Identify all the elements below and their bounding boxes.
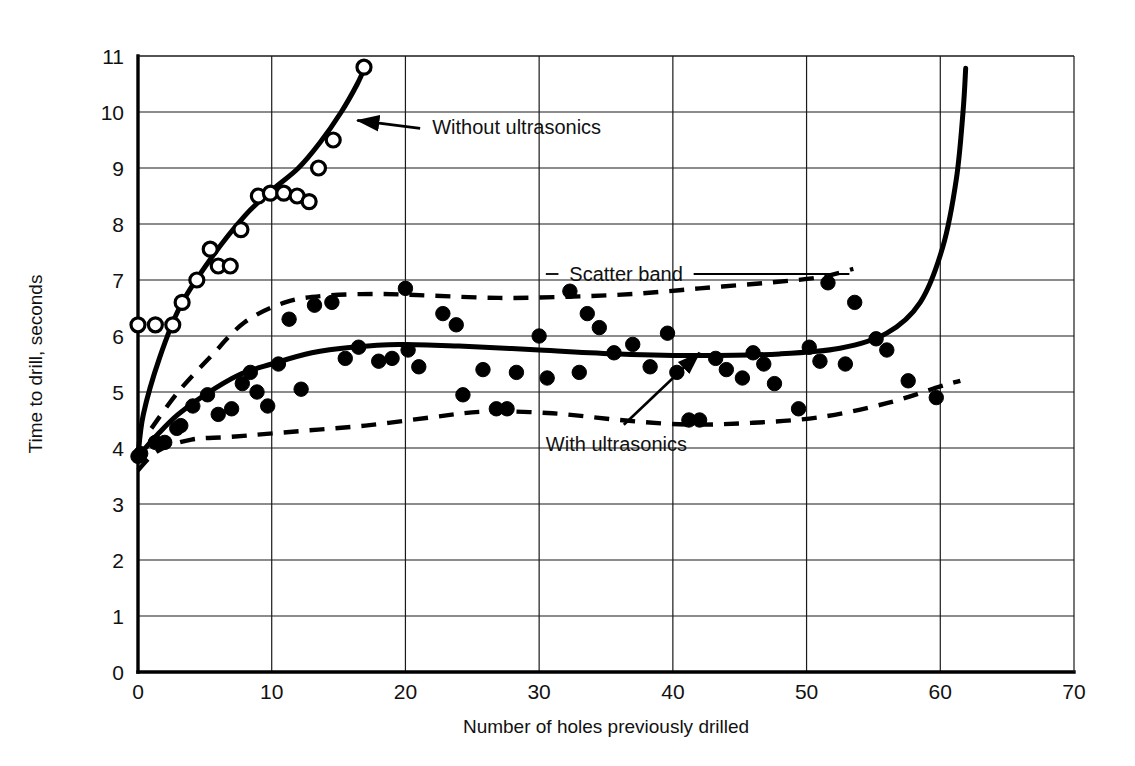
x-tick-label: 20 [394, 680, 417, 703]
data-point-filled [200, 388, 214, 402]
data-point-filled [412, 360, 426, 374]
y-tick-label: 7 [112, 269, 124, 292]
data-point-filled [813, 354, 827, 368]
data-point-filled [325, 295, 339, 309]
data-point-filled [643, 360, 657, 374]
data-point-filled [735, 371, 749, 385]
data-point-filled [158, 435, 172, 449]
data-point-filled [880, 343, 894, 357]
data-point-filled [607, 346, 621, 360]
data-point-filled [509, 365, 523, 379]
data-point-filled [282, 312, 296, 326]
data-point-filled [848, 295, 862, 309]
y-tick-label: 10 [101, 101, 124, 124]
data-point-filled [901, 374, 915, 388]
x-tick-label: 70 [1062, 680, 1085, 703]
data-point-filled [186, 399, 200, 413]
chart-figure: 010203040506070 01234567891011 Without u… [0, 0, 1135, 766]
data-point-filled [401, 343, 415, 357]
data-point-filled [626, 337, 640, 351]
data-point-open [312, 161, 326, 175]
y-tick-label: 4 [112, 437, 124, 460]
data-point-filled [449, 318, 463, 332]
data-point-open [357, 60, 371, 74]
data-point-filled [338, 351, 352, 365]
data-point-open [131, 318, 145, 332]
data-point-filled [211, 407, 225, 421]
data-point-open [203, 242, 217, 256]
y-tick-label: 11 [102, 45, 124, 68]
data-point-filled [692, 413, 706, 427]
data-point-filled [456, 388, 470, 402]
data-point-filled [261, 399, 275, 413]
data-point-open [302, 195, 316, 209]
data-point-open [175, 295, 189, 309]
data-point-filled [243, 365, 257, 379]
scatter-band-label: Scatter band [569, 263, 682, 285]
data-point-filled [532, 329, 546, 343]
x-tick-label: 60 [929, 680, 952, 703]
data-point-open [277, 186, 291, 200]
data-point-filled [929, 390, 943, 404]
data-point-filled [869, 332, 883, 346]
data-point-filled [572, 365, 586, 379]
data-point-filled [540, 371, 554, 385]
data-point-filled [224, 402, 238, 416]
data-point-filled [580, 306, 594, 320]
data-point-filled [371, 354, 385, 368]
y-tick-label: 0 [112, 661, 124, 684]
y-tick-label: 9 [112, 157, 124, 180]
data-point-filled [436, 306, 450, 320]
data-point-filled [398, 281, 412, 295]
data-point-filled [821, 276, 835, 290]
data-point-filled [757, 357, 771, 371]
x-tick-label: 30 [527, 680, 550, 703]
y-tick-label: 5 [112, 381, 124, 404]
data-point-filled [767, 376, 781, 390]
data-point-open [148, 318, 162, 332]
data-point-filled [708, 351, 722, 365]
y-tick-label: 2 [112, 549, 124, 572]
y-tick-label: 8 [112, 213, 124, 236]
data-point-filled [838, 357, 852, 371]
data-point-filled [802, 340, 816, 354]
data-point-filled [250, 385, 264, 399]
data-point-open [166, 318, 180, 332]
data-point-open [190, 273, 204, 287]
x-tick-label: 10 [260, 680, 283, 703]
data-point-filled [271, 357, 285, 371]
data-point-filled [174, 418, 188, 432]
data-point-filled [791, 402, 805, 416]
with-ultrasonics-label: With ultrasonics [546, 433, 687, 455]
data-point-filled [660, 326, 674, 340]
x-tick-label: 0 [132, 680, 144, 703]
data-point-filled [500, 402, 514, 416]
x-tick-label: 50 [795, 680, 818, 703]
data-point-filled [719, 362, 733, 376]
y-tick-label: 6 [112, 325, 124, 348]
data-point-filled [476, 362, 490, 376]
data-point-filled [133, 446, 147, 460]
data-point-filled [351, 340, 365, 354]
data-point-filled [563, 284, 577, 298]
data-point-filled [294, 382, 308, 396]
data-point-open [234, 223, 248, 237]
y-tick-label: 1 [112, 605, 124, 628]
y-tick-label: 3 [112, 493, 124, 516]
without-ultrasonics-label: Without ultrasonics [432, 116, 601, 138]
data-point-open [223, 259, 237, 273]
data-point-open [326, 133, 340, 147]
x-axis-title: Number of holes previously drilled [463, 716, 749, 737]
drilling-time-scatter-chart: 010203040506070 01234567891011 Without u… [0, 0, 1135, 766]
y-axis-title: Time to drill, seconds [25, 275, 46, 454]
data-point-filled [746, 346, 760, 360]
data-point-filled [385, 351, 399, 365]
x-tick-label: 40 [661, 680, 684, 703]
data-point-filled [307, 298, 321, 312]
data-point-filled [592, 320, 606, 334]
